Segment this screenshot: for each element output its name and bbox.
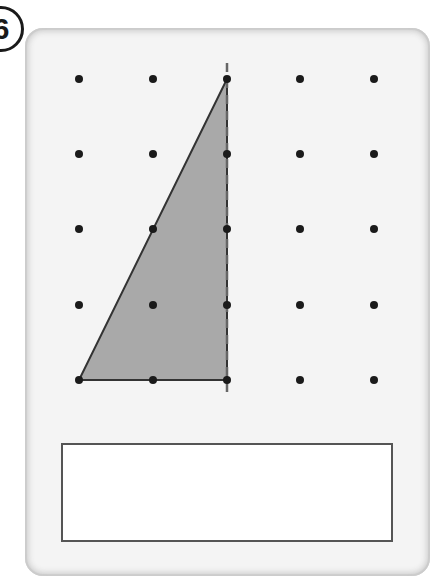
grid-dot <box>223 75 231 83</box>
grid-dot <box>223 376 231 384</box>
grid-dot <box>149 225 157 233</box>
grid-dot <box>370 376 378 384</box>
grid-dot <box>296 301 304 309</box>
grid-dot <box>149 301 157 309</box>
grid-dot <box>370 301 378 309</box>
grid-dot <box>75 376 83 384</box>
grid-dot <box>75 150 83 158</box>
grid-dot <box>296 376 304 384</box>
grid-dot <box>296 225 304 233</box>
grid-dot <box>296 75 304 83</box>
grid-dot <box>296 150 304 158</box>
grid-dot <box>223 301 231 309</box>
grid-dot <box>149 376 157 384</box>
grid-dot <box>149 75 157 83</box>
grid-dot <box>75 301 83 309</box>
grid-dot <box>370 225 378 233</box>
answer-box[interactable] <box>61 443 393 542</box>
grid-dot <box>75 75 83 83</box>
grid-dot <box>223 150 231 158</box>
grid-dot <box>370 75 378 83</box>
grid-dot <box>223 225 231 233</box>
grid-dot <box>370 150 378 158</box>
grid-dot <box>75 225 83 233</box>
grid-dot <box>149 150 157 158</box>
